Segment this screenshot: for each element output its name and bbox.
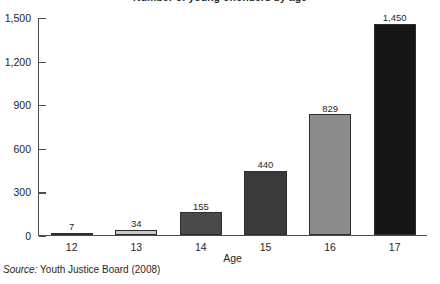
source-text: Youth Justice Board (2008) <box>37 264 160 275</box>
bar-value-label: 440 <box>258 160 274 170</box>
chart-title-text: Number of young offenders by age <box>0 0 440 3</box>
y-tick-label: 600 <box>13 144 31 155</box>
y-tick-label: 300 <box>13 187 31 198</box>
source-label: Source: <box>3 264 37 275</box>
bar-group-age-16: 82916 <box>298 18 363 235</box>
bar-value-label: 1,450 <box>383 13 407 23</box>
bar-age-13[interactable]: 34 <box>115 230 157 235</box>
plot-area: 03006009001,2001,500 7123413155144401582… <box>38 18 427 236</box>
bar-age-16[interactable]: 829 <box>309 114 351 234</box>
y-tick-mark <box>39 236 46 237</box>
x-axis-title: Age <box>38 252 427 264</box>
bar-group-age-15: 44015 <box>233 18 298 235</box>
x-tick-label-17: 17 <box>389 242 401 253</box>
bar-value-label: 34 <box>131 219 142 229</box>
x-axis-line <box>38 235 427 236</box>
x-tick-label-16: 16 <box>324 242 336 253</box>
chart-title-cropped: Number of young offenders by age <box>0 0 440 3</box>
x-tick-label-13: 13 <box>130 242 142 253</box>
bar-group-age-12: 712 <box>39 18 104 235</box>
bar-value-label: 7 <box>69 222 74 232</box>
bar-value-label: 155 <box>193 202 209 212</box>
bar-group-age-17: 1,45017 <box>362 18 427 235</box>
y-tick-label: 1,500 <box>5 13 31 24</box>
bar-age-14[interactable]: 155 <box>180 212 222 235</box>
x-tick-label-15: 15 <box>260 242 272 253</box>
bar-age-12[interactable]: 7 <box>51 233 93 235</box>
y-tick-label: 900 <box>13 100 31 111</box>
source-note: Source: Youth Justice Board (2008) <box>3 264 160 275</box>
y-tick-label: 1,200 <box>5 56 31 67</box>
bar-group-age-13: 3413 <box>104 18 169 235</box>
x-tick-label-14: 14 <box>195 242 207 253</box>
bar-value-label: 829 <box>322 104 338 114</box>
bar-age-17[interactable]: 1,450 <box>374 24 416 235</box>
bar-series: 71234131551444015829161,45017 <box>39 18 427 235</box>
bar-age-15[interactable]: 440 <box>244 171 286 235</box>
x-tick-label-12: 12 <box>66 242 78 253</box>
y-tick-label: 0 <box>25 231 31 242</box>
bar-group-age-14: 15514 <box>169 18 234 235</box>
